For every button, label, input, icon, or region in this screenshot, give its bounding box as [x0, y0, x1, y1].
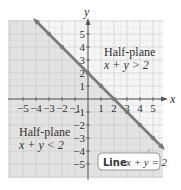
- x-tick-label: −5: [17, 102, 29, 114]
- y-tick-label: −4: [73, 145, 85, 157]
- x-axis-arrow-icon: [161, 97, 168, 102]
- y-tick-label: 5: [80, 28, 86, 40]
- x-tick-label: 2: [111, 102, 117, 114]
- line-point: [86, 71, 90, 75]
- line-label-prefix: Line: [103, 157, 127, 168]
- x-tick-label: 1: [98, 102, 104, 114]
- y-axis-label: y: [83, 5, 90, 19]
- half-plane-graph: −5−4−3−2−11234554321−1−2−3−4−5 x y Half-…: [0, 0, 181, 190]
- x-tick-label: 5: [150, 102, 156, 114]
- upper-region-title: Half-plane: [104, 45, 155, 59]
- line-point: [151, 136, 155, 140]
- line-point: [138, 123, 142, 127]
- line-point: [125, 110, 129, 114]
- line-point: [112, 97, 116, 101]
- y-tick-label: 4: [80, 41, 86, 53]
- y-tick-label: 1: [80, 80, 86, 92]
- y-tick-label: −1: [73, 106, 85, 118]
- line-point: [60, 45, 64, 49]
- y-tick-label: −2: [73, 119, 85, 131]
- y-tick-label: −5: [73, 158, 85, 170]
- line-point: [47, 32, 51, 36]
- lower-region-title: Half-plane: [19, 125, 70, 139]
- line-point: [99, 84, 103, 88]
- x-axis-label: x: [169, 92, 176, 106]
- x-tick-label: −4: [30, 102, 42, 114]
- lower-region-inequality: x + y < 2: [18, 138, 64, 152]
- y-tick-label: −3: [73, 132, 85, 144]
- upper-region-inequality: x + y > 2: [103, 58, 149, 72]
- x-tick-label: −3: [43, 102, 55, 114]
- x-tick-label: 4: [137, 102, 143, 114]
- line-label-equation: x + y = 2: [125, 156, 168, 168]
- x-tick-label: −2: [56, 102, 68, 114]
